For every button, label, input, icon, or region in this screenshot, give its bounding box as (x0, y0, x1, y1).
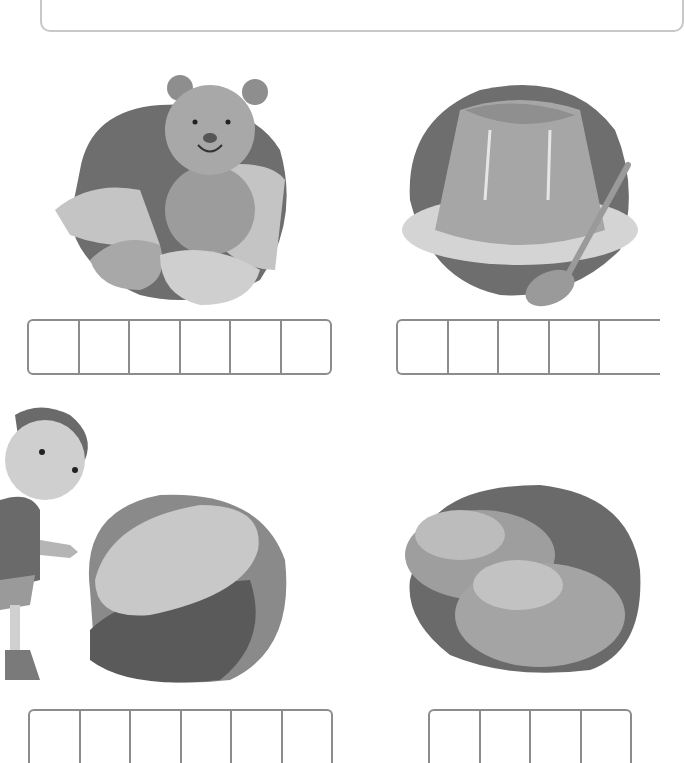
answer-cell[interactable] (481, 711, 532, 763)
answer-boxes-brush[interactable] (28, 709, 333, 763)
answer-cell[interactable] (182, 711, 233, 763)
answer-cell[interactable] (80, 321, 131, 373)
answer-boxes-potatoes[interactable] (428, 709, 632, 763)
answer-cell[interactable] (130, 321, 181, 373)
hint-box: 보기 딱딱해요, 폭신폭신해요, 부드러워요, 거칠거칠해요 (40, 0, 684, 32)
answer-cell[interactable] (398, 321, 449, 373)
answer-cell[interactable] (30, 711, 81, 763)
answer-cell[interactable] (430, 711, 481, 763)
answer-cell[interactable] (131, 711, 182, 763)
answer-cell[interactable] (582, 711, 631, 763)
scrub-brush-illustration (0, 380, 300, 690)
answer-cell[interactable] (283, 711, 332, 763)
answer-cell[interactable] (231, 321, 282, 373)
answer-boxes-jelly[interactable] (396, 319, 660, 375)
answer-cell[interactable] (232, 711, 283, 763)
answer-cell[interactable] (282, 321, 331, 373)
answer-boxes-teddy-bear[interactable] (27, 319, 332, 375)
jelly-pudding-illustration (390, 70, 649, 310)
answer-cell[interactable] (449, 321, 500, 373)
teddy-bear-illustration (50, 60, 310, 310)
answer-cell[interactable] (81, 711, 132, 763)
answer-cell[interactable] (600, 321, 660, 373)
answer-cell[interactable] (181, 321, 232, 373)
answer-cell[interactable] (550, 321, 601, 373)
answer-cell[interactable] (531, 711, 582, 763)
potatoes-illustration (390, 470, 649, 700)
answer-cell[interactable] (29, 321, 80, 373)
answer-cell[interactable] (499, 321, 550, 373)
